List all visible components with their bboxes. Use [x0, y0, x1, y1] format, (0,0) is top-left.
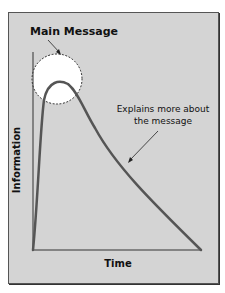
explains-label-line1: Explains more about: [117, 104, 210, 114]
explains-arrow: [130, 131, 158, 160]
y-axis-label: Information: [11, 127, 22, 193]
main-message-highlight: [32, 54, 82, 104]
explains-label-line2: the message: [134, 116, 193, 126]
x-axis-label: Time: [104, 258, 132, 269]
main-message-label: Main Message: [30, 25, 118, 38]
information-curve-diagram: Main Message Explains more about the mes…: [0, 0, 225, 293]
